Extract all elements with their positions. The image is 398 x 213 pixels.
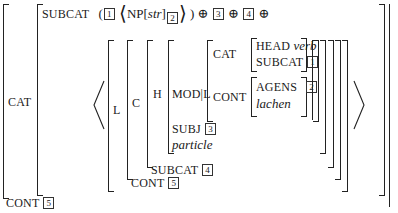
subcat-feature: SUBCAT (1 ⟨NP[str]2⟩ ) ⊕ 3 ⊕ 4 ⊕ <box>42 6 269 25</box>
oplus-1: ⊕ <box>198 6 209 21</box>
mod-outer-right-bracket <box>307 40 313 120</box>
outer-cont-feature: CONT 5 <box>6 196 55 210</box>
h-subcat-label: SUBCAT <box>151 163 198 177</box>
l-label: L <box>113 103 121 117</box>
subj-feature: SUBJ 3 <box>172 122 217 136</box>
c-label: C <box>132 96 140 110</box>
paren-open: ( <box>98 6 102 21</box>
h-right-bracket <box>328 40 334 168</box>
oplus-3: ⊕ <box>258 6 269 21</box>
mod-l-label: MOD|L <box>172 87 211 101</box>
outer-cat-label: CAT <box>8 95 31 109</box>
tag-5: 5 <box>43 197 54 209</box>
inner-cat-label: CAT <box>213 47 236 61</box>
h-left-bracket <box>147 40 153 168</box>
cat-value-right-bracket <box>379 4 385 196</box>
relation-lachen: lachen <box>256 97 291 111</box>
angle-close: ⟩ <box>179 2 187 24</box>
head-value: verb <box>293 38 316 53</box>
h-label: H <box>153 87 162 101</box>
tag-2: 2 <box>167 12 178 24</box>
c-left-bracket <box>127 40 133 180</box>
subj-label: SUBJ <box>172 122 201 136</box>
np-case: str <box>148 6 162 21</box>
tag-4: 4 <box>243 8 254 20</box>
tag-3: 3 <box>205 123 216 135</box>
tag-1: 1 <box>104 8 115 20</box>
paren-close: ) <box>190 6 194 21</box>
tag-4: 4 <box>202 164 213 176</box>
list-angle-open <box>92 80 106 130</box>
inner-cont-label: CONT <box>213 90 246 104</box>
h-subcat-feature: SUBCAT 4 <box>151 163 214 177</box>
outer-cont-label: CONT <box>6 196 39 210</box>
subcat-label: SUBCAT <box>42 7 89 21</box>
head-label: HEAD <box>256 39 290 53</box>
list-angle-close <box>352 80 366 130</box>
tag-5: 5 <box>168 177 179 189</box>
cat-value-left-bracket <box>37 4 43 196</box>
l-right-bracket <box>342 40 348 192</box>
c-cont-feature: CONT 5 <box>131 176 180 190</box>
tag-3: 3 <box>213 8 224 20</box>
c-cont-label: CONT <box>131 176 164 190</box>
type-particle: particle <box>172 138 212 152</box>
np-category: NP[ <box>127 6 148 21</box>
inner-subcat-label: SUBCAT <box>256 55 303 69</box>
c-right-bracket <box>335 40 341 180</box>
angle-open: ⟨ <box>119 2 127 24</box>
h-value-right-bracket <box>320 40 326 154</box>
oplus-2: ⊕ <box>228 6 239 21</box>
agens-label: AGENS <box>256 80 297 94</box>
